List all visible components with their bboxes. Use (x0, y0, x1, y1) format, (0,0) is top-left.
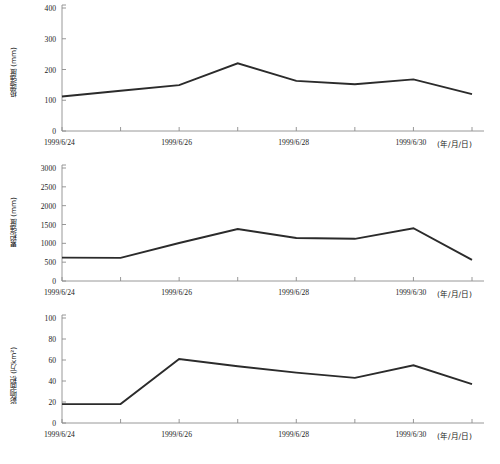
y-tick-label: 20 (48, 398, 56, 407)
y-tick-label: 3000 (41, 164, 56, 173)
y-axis-title-chart1: 极端强度 (mm) (10, 32, 26, 112)
y-tick-label: 40 (48, 377, 56, 386)
y-tick-label: 100 (45, 314, 56, 323)
plot-area-chart3 (56, 310, 486, 442)
x-tick-label: 1999/6/26 (161, 288, 192, 297)
y-tick-label: 1000 (41, 239, 56, 248)
y-tick-label: 80 (48, 335, 56, 344)
data-line-chart3 (62, 359, 472, 404)
data-line-chart2 (62, 228, 472, 260)
y-tick-label: 1500 (41, 220, 56, 229)
x-tick-label: 1999/6/24 (44, 430, 75, 439)
x-tick-label: 1999/6/30 (395, 288, 426, 297)
x-tick-label: 1999/6/28 (278, 430, 309, 439)
chart-panel-extreme-intensity: 极端强度 (mm) 0100200300400 1999/6/241999/6/… (0, 0, 500, 160)
y-axis-title-chart3: 影响面积 (万km²) (10, 332, 26, 420)
x-tick-label: 1999/6/28 (278, 288, 309, 297)
y-tick-label: 60 (48, 356, 56, 365)
chart-panel-cumulative-intensity: 累积强度 (mm) 050010001500200025003000 1999/… (0, 160, 500, 310)
chart-panel-affected-area: 影响面积 (万km²) 020406080100 1999/6/241999/6… (0, 310, 500, 464)
y-tick-label: 2000 (41, 201, 56, 210)
x-tick-label: 1999/6/26 (161, 430, 192, 439)
x-axis-unit-chart1: (年/月/日) (437, 138, 472, 149)
plot-area-chart2 (56, 160, 486, 300)
y-tick-label: 500 (45, 258, 56, 267)
x-tick-label: 1999/6/28 (278, 138, 309, 147)
x-axis-tick-labels-chart1: 1999/6/241999/6/261999/6/281999/6/30 (0, 138, 500, 150)
axes-chart1 (62, 5, 484, 131)
line-chart-svg-2 (56, 160, 486, 300)
y-tick-label: 2500 (41, 182, 56, 191)
x-tick-label: 1999/6/26 (161, 138, 192, 147)
x-axis-unit-chart3: (年/月/日) (437, 430, 472, 441)
line-chart-svg-1 (56, 0, 486, 150)
axes-chart2 (62, 165, 484, 281)
figure-root: 极端强度 (mm) 0100200300400 1999/6/241999/6/… (0, 0, 500, 464)
x-tick-label: 1999/6/24 (44, 288, 75, 297)
y-tick-label: 100 (45, 96, 56, 105)
y-tick-label: 200 (45, 65, 56, 74)
x-axis-tick-labels-chart2: 1999/6/241999/6/261999/6/281999/6/30 (0, 288, 500, 300)
y-tick-label: 300 (45, 34, 56, 43)
x-tick-label: 1999/6/30 (395, 430, 426, 439)
plot-area-chart1 (56, 0, 486, 150)
x-tick-label: 1999/6/24 (44, 138, 75, 147)
x-tick-label: 1999/6/30 (395, 138, 426, 147)
x-axis-unit-chart2: (年/月/日) (437, 288, 472, 299)
data-line-chart1 (62, 63, 472, 96)
axes-chart3 (62, 315, 484, 423)
y-tick-label: 400 (45, 4, 56, 13)
y-axis-tick-labels-chart1: 0100200300400 (28, 0, 56, 160)
y-axis-title-chart2: 累积强度 (mm) (10, 182, 26, 262)
line-chart-svg-3 (56, 310, 486, 442)
x-axis-tick-labels-chart3: 1999/6/241999/6/261999/6/281999/6/30 (0, 430, 500, 442)
